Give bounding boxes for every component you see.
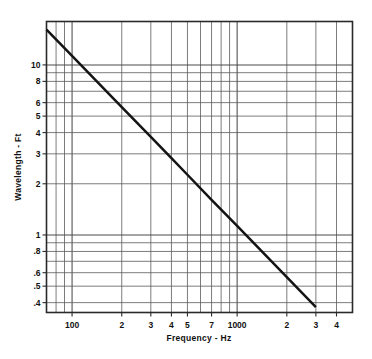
x-tick-label: 2 [284,320,289,330]
x-tick-label: 3 [314,320,319,330]
x-tick-label: 7 [209,320,214,330]
y-tick-label: 2 [36,179,41,189]
x-axis-title: Frequency - Hz [166,333,231,343]
y-tick-label: 8 [36,76,41,86]
x-tick-label: 1000 [228,320,247,330]
y-tick-label: .5 [33,281,40,291]
y-tick-label: .8 [33,246,40,256]
x-tick-label: 4 [334,320,339,330]
y-tick-label: 6 [36,98,41,108]
y-tick-label: 4 [36,128,41,138]
y-tick-label: .4 [33,298,40,308]
y-tick-label: .6 [33,268,40,278]
y-tick-label: 1 [36,230,41,240]
x-tick-label: 2 [119,320,124,330]
y-axis-title: Wavelength - Ft [13,133,23,200]
chart-container: 100234571000234 108654321.8.6.5.4 Freque… [0,0,372,359]
y-tick-label: 10 [31,60,41,70]
y-tick-label: 3 [36,149,41,159]
wavelength-frequency-chart: 100234571000234 108654321.8.6.5.4 Freque… [0,0,372,359]
x-tick-label: 5 [185,320,190,330]
x-tick-label: 100 [65,320,79,330]
x-tick-label: 4 [169,320,174,330]
x-tick-label: 3 [148,320,153,330]
y-tick-label: 5 [36,111,41,121]
